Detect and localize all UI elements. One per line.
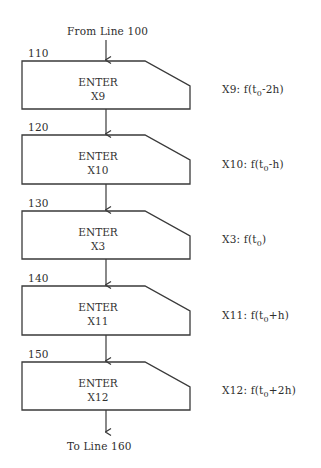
entry-label: From Line 100 — [67, 25, 148, 37]
register-label: X11 — [28, 314, 168, 328]
line-number-110: 110 — [28, 47, 49, 59]
flowchart: From Line 100 To Line 160 110 120 130 14… — [0, 0, 321, 468]
line-number-120: 120 — [28, 121, 49, 133]
action-label: ENTER — [28, 225, 168, 239]
box-content-120: ENTER X10 — [28, 149, 168, 177]
annotation-text: X11: f(t — [222, 309, 264, 321]
annotation-x11: X11: f(t0+h) — [222, 309, 289, 321]
annotation-text: -2h) — [262, 83, 284, 95]
line-number-130: 130 — [28, 197, 49, 209]
action-label: ENTER — [28, 149, 168, 163]
action-label: ENTER — [28, 75, 168, 89]
box-content-130: ENTER X3 — [28, 225, 168, 253]
annotation-x9: X9: f(t0-2h) — [222, 83, 284, 95]
action-label: ENTER — [28, 300, 168, 314]
box-content-150: ENTER X12 — [28, 376, 168, 404]
annotation-text: -h) — [269, 158, 284, 170]
box-content-140: ENTER X11 — [28, 300, 168, 328]
annotation-text: +h) — [269, 309, 289, 321]
annotation-text: ) — [262, 233, 266, 245]
annotation-text: +2h) — [269, 384, 296, 396]
annotation-text: X9: f(t — [222, 83, 257, 95]
action-label: ENTER — [28, 376, 168, 390]
annotation-x12: X12: f(t0+2h) — [222, 384, 296, 396]
register-label: X3 — [28, 239, 168, 253]
box-content-110: ENTER X9 — [28, 75, 168, 103]
register-label: X12 — [28, 390, 168, 404]
line-number-140: 140 — [28, 272, 49, 284]
annotation-x3: X3: f(t0) — [222, 233, 266, 245]
line-number-150: 150 — [28, 348, 49, 360]
register-label: X10 — [28, 163, 168, 177]
exit-label: To Line 160 — [67, 440, 132, 452]
annotation-text: X12: f(t — [222, 384, 264, 396]
register-label: X9 — [28, 89, 168, 103]
annotation-text: X10: f(t — [222, 158, 264, 170]
annotation-x10: X10: f(t0-h) — [222, 158, 284, 170]
annotation-text: X3: f(t — [222, 233, 257, 245]
